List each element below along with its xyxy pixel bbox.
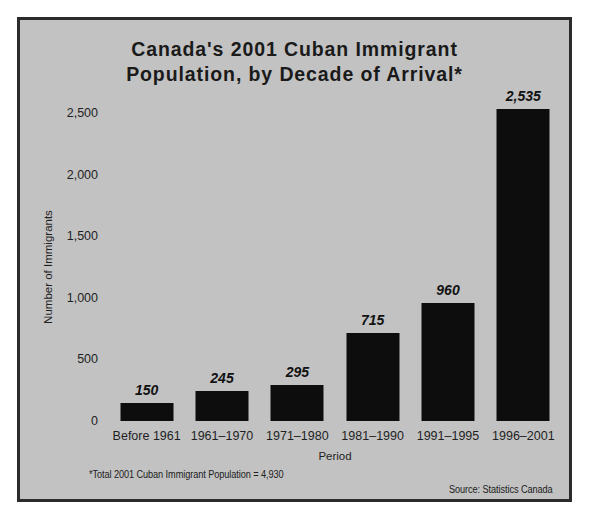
bar-value-label: 715: [361, 312, 384, 328]
chart-title-line-1: Canada's 2001 Cuban Immigrant: [20, 37, 569, 62]
x-axis-category-label: 1971–1980: [266, 429, 329, 443]
bar-value-label: 150: [135, 382, 158, 398]
y-axis-tick-label: 2,000: [67, 168, 98, 182]
bar: [346, 333, 399, 421]
chart-title-line-2: Population, by Decade of Arrival*: [20, 62, 569, 87]
bar-value-label: 960: [436, 282, 459, 298]
bar-group: 9601991–1995: [410, 113, 485, 421]
bar: [120, 403, 173, 421]
bar: [195, 391, 248, 421]
bar: [271, 385, 324, 421]
bar: [497, 109, 550, 421]
chart-source: Source: Statistics Canada: [449, 484, 553, 495]
x-axis-category-label: 1961–1970: [191, 429, 254, 443]
bar-value-label: 2,535: [506, 88, 541, 104]
x-axis-title: Period: [109, 450, 561, 462]
bar-value-label: 295: [286, 364, 309, 380]
y-axis-tick-label: 2,500: [67, 106, 98, 120]
bar-value-label: 245: [210, 370, 233, 386]
x-axis-category-label: 1996–2001: [492, 429, 555, 443]
y-axis-tick-label: 0: [91, 414, 98, 428]
bar-group: 2951971–1980: [260, 113, 335, 421]
chart-figure: Canada's 2001 Cuban Immigrant Population…: [17, 17, 572, 502]
y-axis-tick-label: 500: [77, 352, 98, 366]
x-axis-category-label: 1991–1995: [417, 429, 480, 443]
bar-group: 2,5351996–2001: [486, 113, 561, 421]
bar-group: 2451961–1970: [184, 113, 259, 421]
x-axis-category-label: Before 1961: [113, 429, 181, 443]
chart-footnote: *Total 2001 Cuban Immigrant Population =…: [89, 469, 283, 480]
chart-title: Canada's 2001 Cuban Immigrant Population…: [20, 37, 569, 87]
x-axis-category-label: 1981–1990: [341, 429, 404, 443]
y-axis-title: Number of Immigrants: [42, 210, 54, 324]
plot-area: 05001,0001,5002,0002,500 150Before 19612…: [109, 113, 561, 421]
bar-group: 150Before 1961: [109, 113, 184, 421]
bar-group: 7151981–1990: [335, 113, 410, 421]
y-axis-tick-label: 1,000: [67, 291, 98, 305]
bar: [421, 303, 474, 421]
y-axis-tick-label: 1,500: [67, 229, 98, 243]
